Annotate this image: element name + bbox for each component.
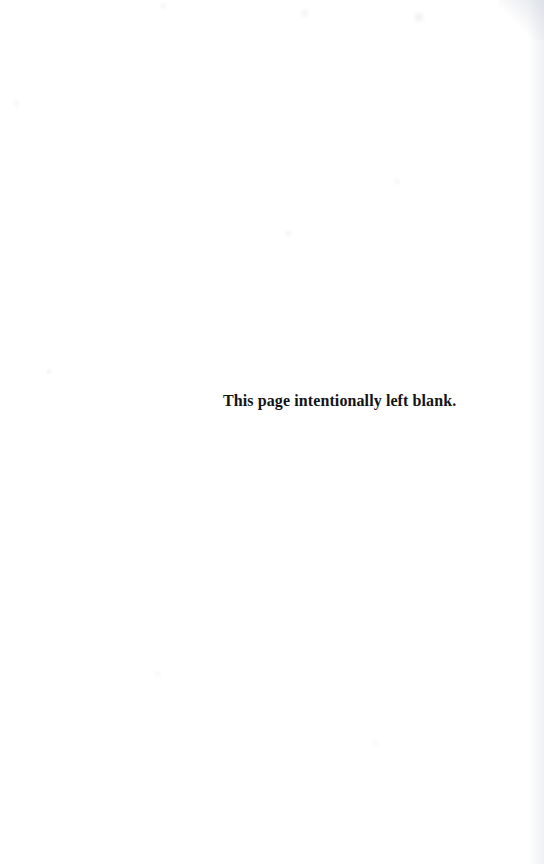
scan-corner-shadow (498, 0, 544, 40)
blank-page-notice: This page intentionally left blank. (223, 391, 456, 411)
scan-right-edge-shading (528, 0, 544, 864)
scanned-page: This page intentionally left blank. (0, 0, 544, 864)
scan-speckle-overlay (0, 0, 544, 864)
